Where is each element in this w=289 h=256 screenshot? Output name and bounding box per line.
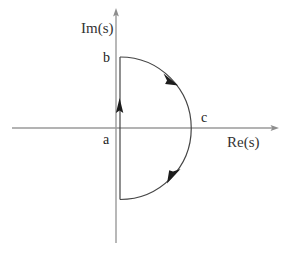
point-label-c: c (201, 111, 207, 125)
contour-direction-arrow-lower-arc-icon (167, 169, 181, 184)
point-label-a: a (103, 133, 109, 147)
diagram-canvas (0, 0, 289, 256)
real-axis-label: Re(s) (227, 135, 260, 150)
contour-diagram-figure: Im(s) Re(s) b a c (0, 0, 289, 256)
point-label-b: b (103, 51, 110, 65)
axes-group (12, 8, 279, 243)
imaginary-axis-label: Im(s) (81, 21, 114, 36)
